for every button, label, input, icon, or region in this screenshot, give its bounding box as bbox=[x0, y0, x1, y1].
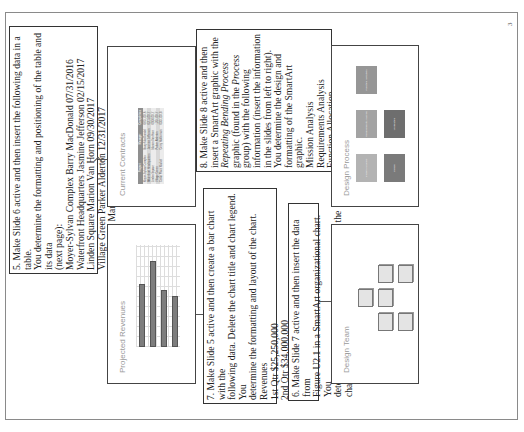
org-node bbox=[398, 265, 413, 283]
step-7-instructions: 7. Make Slide 5 active and then create a… bbox=[203, 188, 277, 404]
slide-title: Current Contracts bbox=[118, 133, 127, 196]
bar-1st-qtr bbox=[139, 284, 145, 347]
table-cell: Waterfront Headquarters bbox=[147, 152, 151, 184]
page-number: 3 bbox=[506, 23, 514, 27]
table-cell: Cedar Place Market bbox=[160, 152, 164, 184]
revenue-bar-chart bbox=[136, 241, 188, 361]
table-cell: Moyer-Sylvan Complex bbox=[143, 152, 147, 184]
bar-4th-qtr bbox=[172, 296, 178, 347]
org-node bbox=[378, 289, 393, 307]
slide-title: Design Process bbox=[342, 140, 351, 196]
bar-2nd-qtr bbox=[150, 261, 156, 347]
table-cell: 07/31/2016 bbox=[143, 108, 147, 126]
step-8-text: group) with the following information (i… bbox=[240, 34, 304, 168]
table-cell: Gerry Halderman bbox=[160, 127, 164, 152]
process-box-design: Design bbox=[384, 154, 405, 182]
step-5-line: Moyer-Sylvan Complex Barry MacDonald 07/… bbox=[65, 30, 76, 270]
process-box-requirements-analysis: Requirements Analysis bbox=[356, 110, 377, 138]
table-row: Moyer-Sylvan ComplexBarry MacDonald07/31… bbox=[143, 108, 147, 184]
slide-title: Design Team bbox=[342, 326, 351, 373]
contracts-table: Project Manager Completion Moyer-Sylvan … bbox=[138, 108, 164, 184]
step-5-line: 5. Make Slide 6 active and then insert t… bbox=[12, 30, 33, 270]
org-node bbox=[378, 313, 393, 331]
process-box-function-allocation: Function Allocation bbox=[356, 66, 377, 94]
step-5-instructions: 5. Make Slide 6 active and then insert t… bbox=[9, 26, 98, 274]
table-cell: Jasmine Jefferson bbox=[147, 127, 151, 152]
step-7-line: 7. Make Slide 5 active and then create a… bbox=[206, 192, 227, 400]
bar-3rd-qtr bbox=[161, 290, 167, 347]
slide-current-contracts: Current Contracts Project Manager Comple… bbox=[107, 46, 196, 207]
step-5-line: You determine the formatting and positio… bbox=[33, 30, 54, 270]
step-8-graphic-name: Repeating Bending Process bbox=[219, 62, 230, 168]
table-cell: Barry MacDonald bbox=[143, 127, 147, 152]
step-6-instructions: 6. Make Slide 7 active and then insert t… bbox=[288, 203, 319, 401]
arrow-step7-to-revenues bbox=[196, 314, 203, 315]
table-row: Linden SquareMarion Van Horn09/30/2017 bbox=[151, 108, 155, 184]
chart-bars bbox=[136, 245, 180, 347]
step-8-instructions: 8. Make Slide 8 active and then insert a… bbox=[196, 29, 332, 172]
org-node bbox=[378, 265, 393, 283]
process-box-verification: Verification bbox=[384, 110, 405, 138]
step-8-text: graphic (found in the bbox=[230, 85, 241, 168]
step-8-intro: 8. Make Slide 8 active and then insert a… bbox=[199, 33, 305, 168]
table-row: Waterfront HeadquartersJasmine Jefferson… bbox=[147, 108, 151, 184]
table-row: Cedar Place MarketGerry Halderman03/31/2… bbox=[160, 108, 164, 184]
step-8-text: 8. Make Slide 8 active and then insert a… bbox=[198, 37, 220, 168]
arrow-step5-to-contracts bbox=[98, 159, 107, 160]
table-cell: 03/31/2018 bbox=[160, 108, 164, 126]
arrow-step6-to-team bbox=[319, 301, 331, 302]
step-8-group-name: Process bbox=[230, 55, 241, 85]
slide-title: Projected Revenues bbox=[118, 301, 127, 373]
org-node bbox=[398, 313, 413, 331]
step-7-line: following data. Delete the chart title a… bbox=[227, 192, 248, 400]
table-cell: 09/30/2017 bbox=[151, 108, 155, 126]
slide-design-team: Design Team bbox=[331, 224, 419, 384]
table-cell: 02/15/2017 bbox=[147, 108, 151, 126]
step-6-line: 6. Make Slide 7 active and then insert t… bbox=[291, 207, 312, 397]
slide-projected-revenues: Projected Revenues bbox=[107, 224, 196, 384]
document-page: 5. Make Slide 6 active and then insert t… bbox=[5, 12, 518, 420]
process-box-mission-analysis: Mission Analysis bbox=[356, 154, 377, 182]
org-node-top bbox=[358, 289, 373, 307]
slide-design-process: Design Process Mission Analysis Requirem… bbox=[331, 45, 419, 207]
step-7-line: determine the formatting and layout of t… bbox=[248, 192, 269, 400]
step-8-item: Mission Analysis bbox=[305, 33, 316, 168]
table-cell: Marion Van Horn bbox=[151, 127, 155, 152]
